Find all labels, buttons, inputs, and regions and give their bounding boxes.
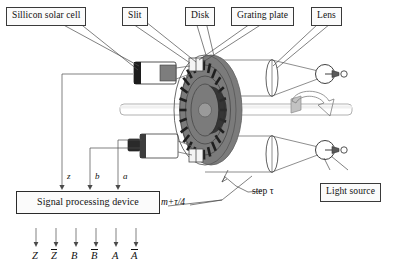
callout-silicon-solar-cell: Sillicon solar cell	[6, 7, 86, 26]
port-label-a: a	[123, 171, 128, 181]
annotation-offset: m+τ/4	[161, 197, 185, 207]
output-signal-1-label: Z	[32, 250, 38, 261]
output-signal-3-label: B	[71, 250, 77, 261]
output-signal-5-label: A	[112, 250, 118, 261]
port-label-z: z	[67, 171, 71, 181]
signal-processing-device-label: Signal processing device	[37, 196, 139, 207]
callout-silicon-solar-cell-label: Sillicon solar cell	[12, 10, 80, 20]
output-signal-4-label: B	[91, 250, 97, 261]
annotation-step: step τ	[252, 186, 274, 196]
output-signal-2-label: Z	[51, 250, 57, 261]
callout-disk: Disk	[185, 7, 215, 26]
lens-lower	[266, 136, 278, 173]
output-wiring	[36, 228, 136, 243]
callout-slit-label: Slit	[128, 10, 142, 20]
callout-grating-plate-label: Grating plate	[237, 10, 288, 20]
output-signal-2: Z	[51, 250, 57, 261]
figure-canvas: Sillicon solar cell Slit Disk Grating pl…	[0, 0, 396, 274]
encoder-disk	[174, 55, 242, 165]
callout-light-source-label: Light source	[326, 186, 375, 196]
input-arrowheads	[59, 185, 120, 190]
encoder-drawing	[0, 0, 396, 274]
lens-upper	[266, 60, 278, 97]
output-signal-6-label: A	[131, 250, 137, 261]
callout-light-source: Light source	[320, 183, 381, 202]
output-signal-6: A	[131, 250, 137, 261]
port-label-b: b	[95, 171, 100, 181]
callout-lens: Lens	[311, 7, 342, 26]
output-signal-4: B	[91, 250, 97, 261]
callout-grating-plate: Grating plate	[231, 7, 294, 26]
callout-lens-label: Lens	[317, 10, 336, 20]
output-signal-3: B	[71, 250, 77, 261]
callout-slit: Slit	[122, 7, 148, 26]
output-signal-5: A	[112, 250, 118, 261]
output-arrowheads	[34, 242, 139, 247]
signal-wiring	[62, 74, 142, 186]
signal-processing-device-box: Signal processing device	[16, 191, 160, 214]
callout-disk-label: Disk	[191, 10, 209, 20]
output-signal-1: Z	[32, 250, 38, 261]
light-source-upper	[316, 65, 348, 84]
